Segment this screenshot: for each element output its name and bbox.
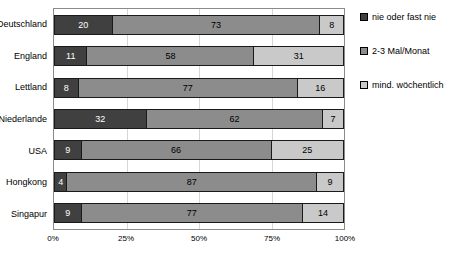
bar-segment-nie: 8 (54, 78, 79, 98)
stacked-bar-chart: Deutschland England Lettland Niederlande… (0, 0, 450, 253)
bar-segment-monat: 87 (67, 172, 317, 192)
bar-segment-nie: 4 (54, 172, 67, 192)
segment-value: 14 (318, 208, 328, 218)
chart-row-deutschland: 20 73 8 (54, 9, 344, 40)
category-label: Deutschland (0, 8, 50, 40)
category-label: USA (0, 135, 50, 167)
segment-value: 4 (58, 177, 63, 187)
category-label: Singapur (0, 198, 50, 230)
bar-segment-nie: 20 (54, 15, 113, 35)
x-tick: 25% (118, 234, 134, 243)
chart-row-niederlande: 32 62 7 (54, 103, 344, 134)
segment-value: 77 (183, 83, 193, 93)
segment-value: 9 (65, 145, 70, 155)
segment-value: 8 (64, 83, 69, 93)
category-label: England (0, 40, 50, 72)
stacked-bar: 20 73 8 (54, 15, 344, 35)
segment-value: 87 (187, 177, 197, 187)
bar-segment-nie: 9 (54, 140, 82, 160)
segment-value: 31 (294, 51, 304, 61)
x-tick: 50% (191, 234, 207, 243)
bar-segment-monat: 77 (82, 203, 303, 223)
segment-value: 11 (66, 51, 75, 61)
bar-segment-woechentlich: 16 (298, 78, 344, 98)
chart-row-lettland: 8 77 16 (54, 72, 344, 103)
legend-label: nie oder fast nie (372, 12, 436, 22)
legend-item-nie: nie oder fast nie (360, 12, 450, 22)
stacked-bar: 32 62 7 (54, 109, 344, 129)
segment-value: 66 (171, 145, 181, 155)
stacked-bar: 8 77 16 (54, 78, 344, 98)
bar-segment-woechentlich: 7 (323, 109, 344, 129)
bar-segment-woechentlich: 8 (320, 15, 344, 35)
bar-segment-monat: 66 (82, 140, 272, 160)
bar-segment-woechentlich: 9 (317, 172, 344, 192)
bar-segment-nie: 11 (54, 46, 87, 66)
category-label: Hongkong (0, 167, 50, 199)
bar-segment-nie: 32 (54, 109, 147, 129)
legend-item-monat: 2-3 Mal/Monat (360, 46, 450, 56)
legend-label: mind. wöchentlich (372, 80, 444, 90)
segment-value: 20 (78, 20, 88, 30)
segment-value: 16 (315, 83, 325, 93)
chart-row-hongkong: 4 87 9 (54, 166, 344, 197)
category-label: Niederlande (0, 103, 50, 135)
stacked-bar: 9 66 25 (54, 140, 344, 160)
stacked-bar: 11 58 31 (54, 46, 344, 66)
segment-value: 32 (95, 114, 105, 124)
bar-segment-monat: 73 (113, 15, 321, 35)
legend-swatch-woechentlich (360, 81, 368, 89)
bar-segment-monat: 77 (79, 78, 298, 98)
x-tick: 0% (47, 234, 59, 243)
segment-value: 25 (302, 145, 312, 155)
bar-segment-nie: 9 (54, 203, 82, 223)
segment-value: 7 (331, 114, 336, 124)
legend: nie oder fast nie 2-3 Mal/Monat mind. wö… (360, 12, 450, 114)
legend-label: 2-3 Mal/Monat (372, 46, 430, 56)
stacked-bar: 4 87 9 (54, 172, 344, 192)
legend-item-woechentlich: mind. wöchentlich (360, 80, 450, 90)
segment-value: 9 (65, 208, 70, 218)
chart-row-england: 11 58 31 (54, 40, 344, 71)
segment-value: 8 (329, 20, 334, 30)
bar-segment-woechentlich: 25 (272, 140, 345, 160)
category-label: Lettland (0, 71, 50, 103)
stacked-bar: 9 77 14 (54, 203, 344, 223)
plot-area: 20 73 8 11 58 31 8 77 16 32 62 7 (53, 8, 345, 230)
chart-row-singapur: 9 77 14 (54, 198, 344, 229)
category-axis: Deutschland England Lettland Niederlande… (0, 8, 50, 230)
bar-segment-monat: 58 (87, 46, 254, 66)
legend-swatch-nie (360, 13, 368, 21)
segment-value: 58 (165, 51, 175, 61)
bar-segment-woechentlich: 31 (254, 46, 344, 66)
segment-value: 77 (187, 208, 197, 218)
legend-swatch-monat (360, 47, 368, 55)
segment-value: 73 (211, 20, 221, 30)
bar-segment-monat: 62 (147, 109, 324, 129)
x-tick: 75% (264, 234, 280, 243)
segment-value: 9 (328, 177, 333, 187)
bar-segment-woechentlich: 14 (303, 203, 344, 223)
x-axis: 0% 25% 50% 75% 100% (53, 234, 345, 246)
x-tick: 100% (335, 234, 355, 243)
segment-value: 62 (229, 114, 239, 124)
chart-row-usa: 9 66 25 (54, 135, 344, 166)
